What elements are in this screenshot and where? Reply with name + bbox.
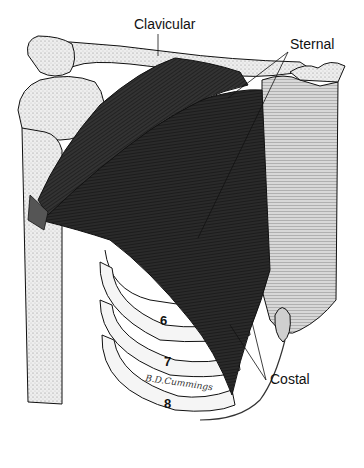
label-sternal: Sternal (290, 36, 334, 52)
rib-number-6: 6 (160, 313, 167, 328)
xiphoid (275, 308, 290, 343)
label-clavicular: Clavicular (134, 16, 195, 32)
acromion (27, 36, 74, 76)
leader-costal-b (252, 322, 266, 380)
rib-number-7: 7 (164, 354, 171, 369)
label-costal: Costal (270, 371, 310, 387)
sternum (262, 76, 338, 333)
pectoralis-illustration (0, 0, 364, 468)
rib-number-8: 8 (164, 396, 171, 411)
